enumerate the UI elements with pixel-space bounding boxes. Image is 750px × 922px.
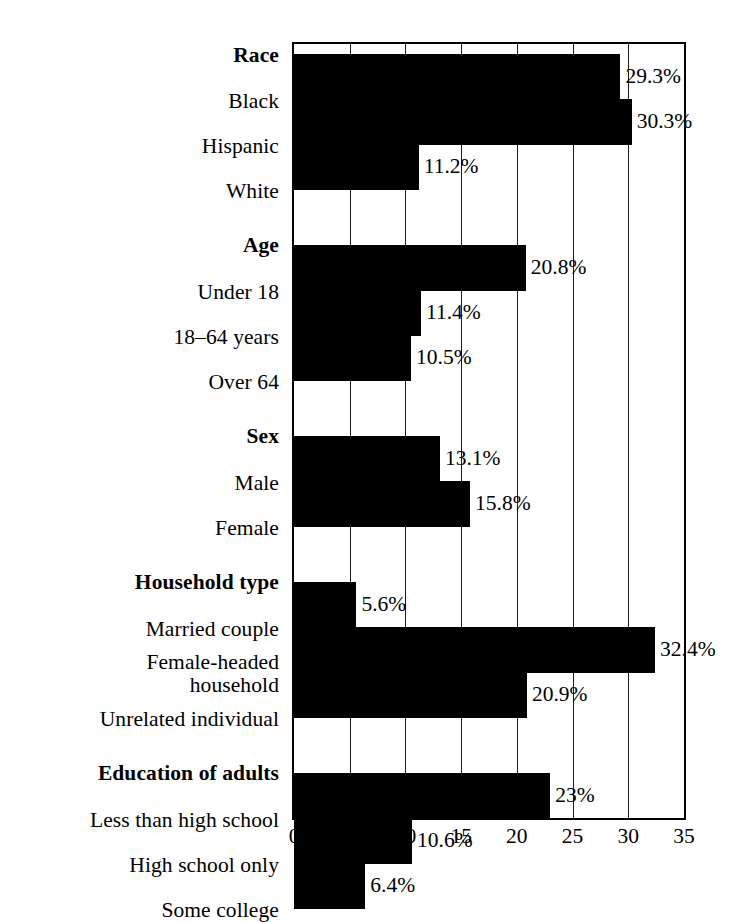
category-label: Hispanic xyxy=(202,135,279,158)
bar-value-label: 29.3% xyxy=(625,66,681,88)
x-tick-label: 30 xyxy=(618,826,640,848)
bar xyxy=(294,627,655,673)
group-header-label: Sex xyxy=(246,425,279,448)
category-label: Married couple xyxy=(146,618,279,641)
bar xyxy=(294,773,550,819)
x-tick-label: 5 xyxy=(344,826,355,848)
bar xyxy=(294,144,419,190)
bar-value-label: 20.8% xyxy=(531,257,587,279)
category-label: Unrelated individual xyxy=(100,708,279,731)
bar-value-label: 30.3% xyxy=(637,111,693,133)
x-tick-label: 35 xyxy=(673,826,695,848)
bar-value-label: 23% xyxy=(555,785,594,807)
category-label: Black xyxy=(228,90,279,113)
bar xyxy=(294,290,421,336)
bar xyxy=(294,481,470,527)
x-tick-label: 20 xyxy=(506,826,528,848)
category-label: Male xyxy=(234,472,279,495)
category-label: Female xyxy=(215,517,279,540)
bar-value-label: 10.5% xyxy=(416,347,472,369)
bar-value-label: 11.4% xyxy=(426,302,481,324)
bar xyxy=(294,863,365,909)
category-label: Less than high school xyxy=(90,809,279,832)
group-header-label: Household type xyxy=(135,571,279,594)
category-label: 18–64 years xyxy=(173,326,279,349)
category-label: High school only xyxy=(129,854,279,877)
category-label-column: RaceBlackHispanicWhiteAgeUnder 1818–64 y… xyxy=(0,42,285,820)
x-tick-label: 25 xyxy=(562,826,584,848)
bar xyxy=(294,672,527,718)
group-header-label: Education of adults xyxy=(98,762,279,785)
bar-value-label: 13.1% xyxy=(445,448,501,470)
bar-value-label: 32.4% xyxy=(660,639,716,661)
bar-value-label: 20.9% xyxy=(532,684,588,706)
category-label: Female-headed household xyxy=(146,651,279,697)
plot-area: 29.3%30.3%11.2%20.8%11.4%10.5%13.1%15.8%… xyxy=(292,42,686,820)
group-header-label: Race xyxy=(233,44,279,67)
bar-value-label: 11.2% xyxy=(424,156,479,178)
bar xyxy=(294,54,620,100)
bar xyxy=(294,335,411,381)
category-label: White xyxy=(226,180,279,203)
category-label: Some college xyxy=(161,899,279,922)
x-axis-tick-labels: 05101520253035 xyxy=(292,826,686,866)
bar xyxy=(294,436,440,482)
category-label: Over 64 xyxy=(208,371,279,394)
group-header-label: Age xyxy=(243,234,279,257)
bar-value-label: 15.8% xyxy=(475,493,531,515)
bar-value-label: 6.4% xyxy=(370,875,415,897)
x-tick-label: 10 xyxy=(395,826,417,848)
bar-value-label: 5.6% xyxy=(361,594,406,616)
bar xyxy=(294,582,356,628)
x-tick-label: 15 xyxy=(450,826,472,848)
category-label: Under 18 xyxy=(198,281,279,304)
x-tick-label: 0 xyxy=(289,826,300,848)
bar xyxy=(294,245,526,291)
gridline xyxy=(628,44,629,818)
bar xyxy=(294,99,632,145)
